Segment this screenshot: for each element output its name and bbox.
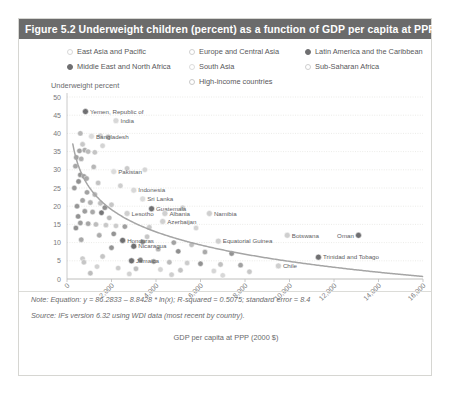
data-point-label: Bangladesh xyxy=(96,133,129,140)
y-axis-tick-label: 40 xyxy=(53,130,61,137)
data-point[interactable] xyxy=(127,271,132,276)
data-point[interactable] xyxy=(82,209,87,214)
data-point[interactable] xyxy=(93,222,98,227)
data-point-labeled[interactable] xyxy=(131,243,137,249)
legend-item-middle-east-and-north-africa[interactable]: Middle East and North Africa xyxy=(67,60,171,73)
data-point-label: Indonesia xyxy=(138,186,165,193)
data-point[interactable] xyxy=(76,179,81,184)
data-point[interactable] xyxy=(142,167,147,172)
data-point[interactable] xyxy=(109,202,114,207)
data-point[interactable] xyxy=(103,222,108,227)
data-point-labeled[interactable] xyxy=(160,218,166,224)
data-point[interactable] xyxy=(133,266,138,271)
legend-item-sub-saharan-africa[interactable]: Sub-Saharan Africa xyxy=(305,60,423,73)
data-point[interactable] xyxy=(202,249,207,254)
data-point-label: Pakistan xyxy=(118,168,142,175)
data-point[interactable] xyxy=(109,245,114,250)
data-point[interactable] xyxy=(111,231,116,236)
data-point[interactable] xyxy=(78,131,83,136)
data-point-labeled[interactable] xyxy=(124,210,130,216)
data-point[interactable] xyxy=(77,148,82,153)
plot-area: Underweight percent 05101520253035404550… xyxy=(19,81,433,375)
y-axis-tick-label: 20 xyxy=(53,203,61,210)
data-point-label: Sri Lanka xyxy=(147,195,174,202)
data-point[interactable] xyxy=(81,260,86,265)
data-point-labeled[interactable] xyxy=(120,237,126,243)
data-point-labeled[interactable] xyxy=(315,254,321,260)
data-point-label: Yemen, Republic of xyxy=(90,108,144,115)
data-point[interactable] xyxy=(100,143,105,148)
data-point[interactable] xyxy=(107,215,112,220)
legend-item-europe-and-central-asia[interactable]: Europe and Central Asia xyxy=(189,45,279,58)
data-point-label: Albania xyxy=(169,210,190,217)
legend-marker-icon xyxy=(189,64,195,70)
data-point-labeled[interactable] xyxy=(355,232,361,238)
chart-legend: East Asia and Pacific Middle East and No… xyxy=(19,39,431,81)
data-point[interactable] xyxy=(88,270,93,275)
legend-label: Sub-Saharan Africa xyxy=(315,62,379,71)
data-point[interactable] xyxy=(118,183,123,188)
data-point[interactable] xyxy=(79,156,84,161)
data-point[interactable] xyxy=(193,225,198,230)
legend-marker-icon xyxy=(305,49,311,55)
data-point-labeled[interactable] xyxy=(140,196,146,202)
data-point[interactable] xyxy=(211,268,216,273)
data-point[interactable] xyxy=(97,233,102,238)
legend-item-south-asia[interactable]: South Asia xyxy=(189,60,279,73)
data-point-labeled[interactable] xyxy=(162,210,168,216)
data-point[interactable] xyxy=(95,180,100,185)
data-point[interactable] xyxy=(220,273,225,278)
data-point[interactable] xyxy=(75,214,80,219)
data-point[interactable] xyxy=(99,210,104,215)
data-point-labeled[interactable] xyxy=(88,133,94,139)
data-point[interactable] xyxy=(80,142,85,147)
data-point[interactable] xyxy=(72,185,77,190)
legend-label: Europe and Central Asia xyxy=(199,47,279,56)
figure-card: Figure 5.2 Underweight children (percent… xyxy=(18,18,432,376)
data-point-label: Trinidad and Tobago xyxy=(323,253,380,260)
legend-item-east-asia-and-pacific[interactable]: East Asia and Pacific xyxy=(67,45,171,58)
data-point-labeled[interactable] xyxy=(82,109,88,115)
data-point-labeled[interactable] xyxy=(275,263,281,269)
data-point[interactable] xyxy=(79,237,84,242)
data-point[interactable] xyxy=(122,224,127,229)
y-axis-tick-label: 45 xyxy=(53,112,61,119)
legend-marker-icon xyxy=(67,64,73,70)
data-point[interactable] xyxy=(198,261,203,266)
data-point[interactable] xyxy=(88,200,93,205)
data-point[interactable] xyxy=(94,264,99,269)
data-point[interactable] xyxy=(85,149,90,154)
data-point[interactable] xyxy=(238,262,243,267)
legend-label: Middle East and North Africa xyxy=(77,62,171,71)
data-point[interactable] xyxy=(73,225,78,230)
data-point[interactable] xyxy=(184,260,189,265)
data-point-labeled[interactable] xyxy=(113,118,119,124)
data-point[interactable] xyxy=(74,204,79,209)
data-point-labeled[interactable] xyxy=(131,187,137,193)
data-point[interactable] xyxy=(167,260,172,265)
data-point-labeled[interactable] xyxy=(206,210,212,216)
data-point[interactable] xyxy=(218,262,223,267)
data-point[interactable] xyxy=(171,240,176,245)
data-point-labeled[interactable] xyxy=(111,169,117,175)
data-point-labeled[interactable] xyxy=(129,258,135,264)
data-point[interactable] xyxy=(84,190,89,195)
data-point[interactable] xyxy=(176,249,181,254)
data-point-label: Namibia xyxy=(214,210,237,217)
data-point[interactable] xyxy=(80,198,85,203)
legend-item-latin-america-and-the-caribbean[interactable]: Latin America and the Caribbean xyxy=(305,45,423,58)
data-point[interactable] xyxy=(78,220,83,225)
data-point[interactable] xyxy=(100,254,105,259)
data-point-labeled[interactable] xyxy=(284,232,290,238)
data-point[interactable] xyxy=(90,209,95,214)
data-point[interactable] xyxy=(91,164,96,169)
data-point[interactable] xyxy=(178,268,183,273)
data-point[interactable] xyxy=(169,272,174,277)
data-point[interactable] xyxy=(113,223,118,228)
data-point[interactable] xyxy=(115,265,120,270)
data-point[interactable] xyxy=(247,269,252,274)
data-point[interactable] xyxy=(85,221,90,226)
data-point[interactable] xyxy=(158,267,163,272)
data-point[interactable] xyxy=(92,150,97,155)
data-point-labeled[interactable] xyxy=(215,238,221,244)
